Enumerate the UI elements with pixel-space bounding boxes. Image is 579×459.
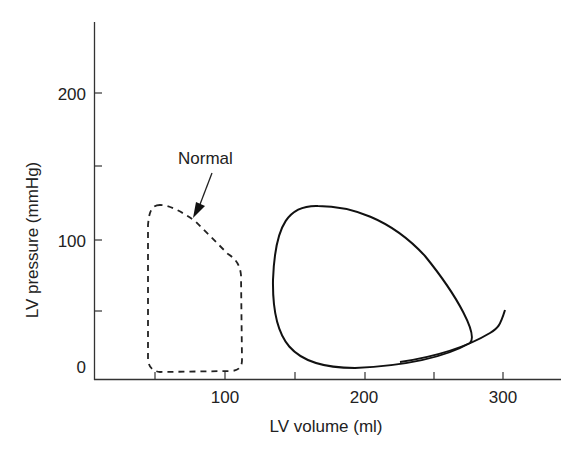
arrow-head-icon [193,202,205,218]
x-axis-title: LV volume (ml) [269,417,382,436]
x-tick-label-200: 200 [350,388,378,407]
dilated-pv-loop [273,206,472,368]
y-ticks [94,93,102,311]
x-tick-label-300: 300 [489,388,517,407]
y-axis-title: LV pressure (mmHg) [23,162,42,319]
x-ticks [155,372,503,380]
normal-pv-loop [148,205,242,372]
filling-curve [400,310,505,362]
x-tick-label-100: 100 [211,388,239,407]
annotation-arrow-line [199,173,212,207]
y-tick-label-0: 0 [77,358,86,377]
y-tick-label-200: 200 [58,85,86,104]
normal-annotation: Normal [178,149,233,168]
pv-loop-chart: 200 100 0 100 200 300 LV volume (ml) LV … [0,0,579,459]
y-tick-label-100: 100 [58,232,86,251]
